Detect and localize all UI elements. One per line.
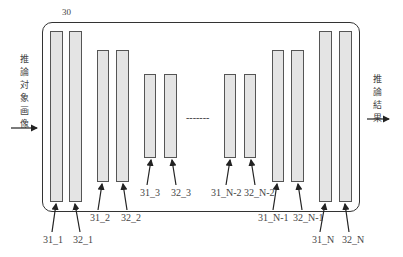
layer-label: 31_N-1 — [258, 212, 289, 223]
arrows-layer — [0, 0, 403, 257]
layer-label: 32_N-1 — [293, 212, 324, 223]
layer-label: 32_2 — [121, 212, 141, 223]
layer-label: 32_1 — [73, 234, 93, 245]
layer-label: 32_N-2 — [244, 187, 275, 198]
layer-label: 31_1 — [43, 234, 63, 245]
layer-label: 31_N — [312, 234, 334, 245]
layer-label: 31_N-2 — [211, 187, 242, 198]
layer-label: 32_3 — [171, 187, 191, 198]
layer-label: 31_2 — [90, 212, 110, 223]
layer-label: 32_N — [342, 234, 364, 245]
layer-label: 31_3 — [140, 187, 160, 198]
